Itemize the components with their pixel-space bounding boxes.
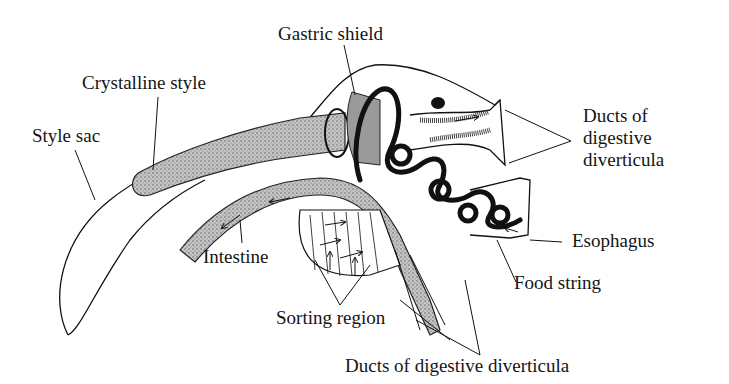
label-ducts-right-line-1: Ducts of — [583, 105, 683, 127]
label-crystalline-style: Crystalline style — [82, 72, 206, 94]
label-ducts-right: Ducts of digestive diverticula — [583, 105, 683, 171]
label-gastric-shield: Gastric shield — [278, 23, 383, 45]
gastric-shield-shape — [347, 92, 380, 165]
label-style-sac: Style sac — [32, 125, 100, 147]
label-esophagus: Esophagus — [572, 230, 654, 252]
label-sorting-region: Sorting region — [276, 307, 385, 329]
label-food-string: Food string — [514, 272, 601, 294]
label-ducts-right-line-3: diverticula — [583, 149, 683, 171]
label-intestine: Intestine — [203, 246, 268, 268]
label-ducts-right-line-2: digestive — [583, 127, 683, 149]
label-ducts-bottom: Ducts of digestive diverticula — [345, 355, 569, 377]
